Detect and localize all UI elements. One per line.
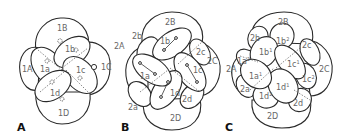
label-2B: 2B: [278, 18, 289, 27]
label-2D: 2D: [267, 112, 278, 121]
label-2a: 2a: [128, 103, 138, 112]
panel-a: 1B 1b 1A 1a 1c 1C 1d 1D A: [17, 18, 112, 134]
label-2b: 2b: [132, 32, 142, 41]
label-1a: 1a: [140, 72, 150, 81]
label-1d: 1d: [170, 89, 180, 98]
label-2c: 2c: [302, 41, 312, 50]
label-1C: 1C: [101, 63, 112, 72]
label-2d: 2d: [293, 99, 303, 108]
label-1B: 1B: [57, 24, 68, 33]
label-2B: 2B: [165, 18, 176, 27]
panel-label-a: A: [17, 121, 26, 134]
label-2A: 2A: [226, 65, 237, 74]
panel-b: 2B 2b 2A 1b 2c 2C 1a 1c 1d 2d 2a 2D B: [114, 12, 220, 134]
label-1c: 1c: [76, 66, 86, 75]
panel-label-b: B: [121, 121, 129, 134]
label-2c: 2c: [196, 48, 206, 57]
label-2A: 2A: [114, 42, 125, 51]
label-2a: 2a: [240, 85, 250, 94]
label-1b: 1b: [65, 45, 75, 54]
label-2D: 2D: [170, 114, 181, 123]
label-2d: 2d: [182, 95, 192, 104]
label-2b: 2b: [250, 34, 260, 43]
label-2C: 2C: [319, 65, 330, 74]
panel-label-c: C: [225, 121, 233, 134]
panel-c: 2B 2b 1b2 2c 1b1 1a2 2A 1c1 2C 1a1 1c2 1…: [225, 12, 332, 134]
label-1a: 1a: [40, 65, 50, 74]
cleavage-diagram: 1B 1b 1A 1a 1c 1C 1d 1D A: [0, 0, 340, 140]
label-1d: 1d: [50, 89, 60, 98]
label-1D: 1D: [58, 109, 69, 118]
label-1b: 1b: [160, 37, 170, 46]
label-1c: 1c: [193, 66, 203, 75]
label-2C: 2C: [207, 57, 218, 66]
label-1A: 1A: [22, 65, 33, 74]
